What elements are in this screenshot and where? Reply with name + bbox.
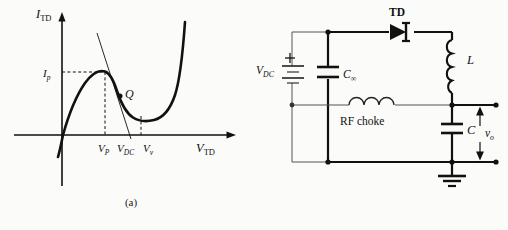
panel-b-circuit: VDC TD C∞ — [254, 0, 508, 230]
valley-voltage-label: Vv — [143, 142, 154, 157]
y-axis — [58, 12, 65, 186]
x-axis-title: VTD — [196, 141, 215, 157]
x-axis — [14, 131, 236, 138]
q-point-label: Q — [125, 87, 134, 101]
rf-choke-label: RF choke — [340, 115, 384, 127]
iv-curve-svg: ITD VTD Ip Q VP VDC Vv — [0, 0, 254, 196]
y-axis-title-sub: TD — [40, 13, 51, 23]
dc-source-symbol — [282, 66, 304, 83]
output-terminal-bottom — [493, 159, 498, 164]
iv-characteristic-curve — [58, 22, 185, 157]
dc-source-label: VDC — [256, 64, 275, 79]
tank-capacitor-symbol — [441, 124, 463, 133]
q-point-marker — [118, 94, 123, 99]
polarity-plus-icon — [285, 53, 295, 63]
peak-voltage-label: VP — [98, 142, 110, 157]
panel-a-iv-curve: ITD VTD Ip Q VP VDC Vv (a) — [0, 0, 254, 230]
x-axis-title-sub: TD — [204, 147, 215, 157]
peak-current-label: Ip — [42, 67, 51, 82]
ground-icon — [438, 162, 466, 186]
output-voltage-arrows — [477, 108, 483, 159]
bias-voltage-label: VDC — [117, 142, 135, 157]
junction-dot-output-top — [449, 102, 454, 107]
blocking-capacitor-symbol — [317, 67, 339, 77]
junction-dot-top-left — [325, 29, 330, 34]
tank-capacitor-label: C — [467, 123, 476, 137]
figure-page: ITD VTD Ip Q VP VDC Vv (a) — [0, 0, 508, 230]
junction-dot-bottom-left — [325, 159, 330, 164]
junction-dot-source-node — [290, 103, 295, 108]
tank-inductor-label: L — [466, 53, 474, 67]
circuit-svg: VDC TD C∞ — [254, 0, 508, 196]
output-voltage-label: vo — [485, 127, 494, 142]
blocking-capacitor-label: C∞ — [343, 68, 357, 83]
output-terminal-top — [493, 102, 498, 107]
panel-a-caption: (a) — [111, 196, 151, 208]
source-branch-wires — [292, 32, 328, 162]
tunnel-diode-label: TD — [389, 6, 405, 18]
y-axis-title: ITD — [35, 7, 52, 23]
tank-inductor-coil-icon — [447, 40, 452, 93]
rf-choke-coil-icon — [349, 98, 394, 105]
tunnel-diode-symbol — [390, 23, 410, 41]
